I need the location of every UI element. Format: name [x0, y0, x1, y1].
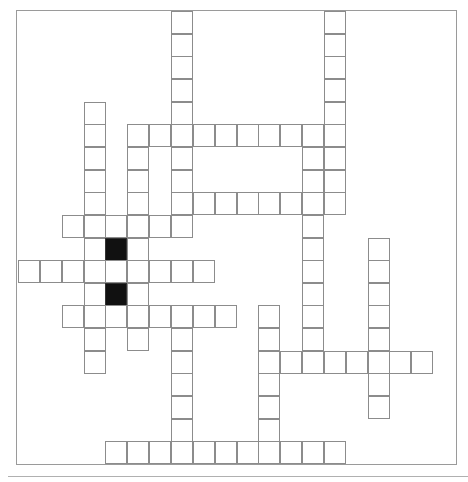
crossword-cell[interactable]: [171, 79, 193, 102]
crossword-cell[interactable]: [171, 34, 193, 57]
crossword-cell[interactable]: [324, 351, 346, 374]
crossword-cell[interactable]: [149, 260, 171, 283]
crossword-cell[interactable]: [368, 373, 390, 396]
crossword-cell[interactable]: [171, 124, 193, 147]
crossword-cell[interactable]: [62, 215, 84, 238]
crossword-cell[interactable]: [324, 124, 346, 147]
crossword-cell[interactable]: [280, 351, 302, 374]
crossword-cell[interactable]: [171, 419, 193, 442]
crossword-cell[interactable]: [215, 124, 237, 147]
crossword-cell[interactable]: [171, 56, 193, 79]
crossword-cell[interactable]: [258, 192, 280, 215]
crossword-cell[interactable]: [258, 328, 280, 351]
crossword-cell[interactable]: [368, 351, 390, 374]
crossword-cell[interactable]: [258, 419, 280, 442]
crossword-cell[interactable]: [215, 305, 237, 328]
crossword-cell[interactable]: [193, 260, 215, 283]
crossword-cell[interactable]: [302, 215, 324, 238]
crossword-cell[interactable]: [171, 328, 193, 351]
crossword-cell[interactable]: [127, 124, 149, 147]
crossword-cell[interactable]: [171, 260, 193, 283]
crossword-cell[interactable]: [127, 260, 149, 283]
crossword-cell[interactable]: [62, 260, 84, 283]
crossword-cell[interactable]: [258, 441, 280, 464]
crossword-cell[interactable]: [237, 192, 259, 215]
crossword-cell[interactable]: [324, 170, 346, 193]
crossword-cell[interactable]: [171, 305, 193, 328]
crossword-cell[interactable]: [237, 441, 259, 464]
crossword-cell[interactable]: [149, 124, 171, 147]
crossword-cell[interactable]: [302, 328, 324, 351]
crossword-cell[interactable]: [324, 147, 346, 170]
crossword-cell[interactable]: [171, 215, 193, 238]
crossword-cell[interactable]: [105, 305, 127, 328]
crossword-cell[interactable]: [127, 147, 149, 170]
crossword-cell[interactable]: [324, 79, 346, 102]
crossword-cell[interactable]: [302, 124, 324, 147]
crossword-cell[interactable]: [40, 260, 62, 283]
crossword-cell[interactable]: [193, 305, 215, 328]
crossword-cell[interactable]: [302, 351, 324, 374]
crossword-cell[interactable]: [346, 351, 368, 374]
crossword-cell[interactable]: [215, 192, 237, 215]
crossword-cell[interactable]: [302, 192, 324, 215]
crossword-cell[interactable]: [127, 305, 149, 328]
crossword-cell[interactable]: [193, 124, 215, 147]
crossword-cell[interactable]: [302, 147, 324, 170]
crossword-cell[interactable]: [368, 238, 390, 261]
crossword-cell[interactable]: [127, 441, 149, 464]
crossword-cell[interactable]: [171, 396, 193, 419]
crossword-cell[interactable]: [258, 373, 280, 396]
crossword-cell[interactable]: [149, 305, 171, 328]
crossword-cell[interactable]: [258, 396, 280, 419]
crossword-cell[interactable]: [302, 170, 324, 193]
crossword-cell[interactable]: [84, 305, 106, 328]
crossword-cell[interactable]: [258, 351, 280, 374]
crossword-cell[interactable]: [280, 124, 302, 147]
crossword-cell[interactable]: [127, 215, 149, 238]
crossword-cell[interactable]: [237, 124, 259, 147]
crossword-cell[interactable]: [324, 11, 346, 34]
crossword-cell[interactable]: [171, 351, 193, 374]
crossword-cell[interactable]: [105, 441, 127, 464]
crossword-cell[interactable]: [193, 441, 215, 464]
crossword-cell[interactable]: [258, 305, 280, 328]
crossword-cell[interactable]: [84, 102, 106, 125]
crossword-cell[interactable]: [302, 283, 324, 306]
crossword-cell[interactable]: [105, 260, 127, 283]
crossword-cell[interactable]: [127, 328, 149, 351]
crossword-cell[interactable]: [127, 170, 149, 193]
crossword-cell[interactable]: [324, 34, 346, 57]
crossword-cell[interactable]: [18, 260, 40, 283]
crossword-cell[interactable]: [62, 305, 84, 328]
crossword-cell[interactable]: [258, 124, 280, 147]
crossword-cell[interactable]: [84, 328, 106, 351]
crossword-cell[interactable]: [149, 215, 171, 238]
crossword-cell[interactable]: [389, 351, 411, 374]
crossword-cell[interactable]: [324, 441, 346, 464]
crossword-cell[interactable]: [84, 283, 106, 306]
crossword-cell[interactable]: [84, 124, 106, 147]
crossword-cell[interactable]: [302, 260, 324, 283]
crossword-cell[interactable]: [127, 283, 149, 306]
crossword-cell[interactable]: [368, 396, 390, 419]
crossword-cell[interactable]: [171, 192, 193, 215]
crossword-cell[interactable]: [127, 192, 149, 215]
crossword-cell[interactable]: [302, 305, 324, 328]
crossword-cell[interactable]: [84, 238, 106, 261]
crossword-cell[interactable]: [84, 260, 106, 283]
crossword-cell[interactable]: [171, 11, 193, 34]
crossword-cell[interactable]: [171, 170, 193, 193]
crossword-cell[interactable]: [368, 283, 390, 306]
crossword-cell[interactable]: [324, 102, 346, 125]
crossword-cell[interactable]: [171, 373, 193, 396]
crossword-cell[interactable]: [280, 192, 302, 215]
crossword-cell[interactable]: [411, 351, 433, 374]
crossword-cell[interactable]: [368, 260, 390, 283]
crossword-cell[interactable]: [193, 192, 215, 215]
crossword-cell[interactable]: [324, 56, 346, 79]
crossword-cell[interactable]: [149, 441, 171, 464]
crossword-cell[interactable]: [302, 441, 324, 464]
crossword-cell[interactable]: [302, 238, 324, 261]
crossword-cell[interactable]: [280, 441, 302, 464]
